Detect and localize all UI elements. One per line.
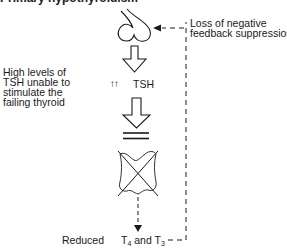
pituitary-icon (118, 9, 150, 41)
down-arrow-icon (123, 98, 150, 128)
tsh-label: TSH (133, 78, 154, 90)
t4-t3-label: T4 and T3 (121, 235, 165, 248)
and-t-text: and T (131, 234, 161, 246)
feedback-note-line: feedback suppression (190, 28, 287, 38)
down-arrow-icon (123, 46, 146, 72)
feedback-arrowhead-icon (153, 25, 161, 32)
dashed-down-arrow-icon (134, 197, 142, 232)
tsh-explanation: High levels of TSH unable to stimulate t… (3, 67, 70, 107)
explanation-line: failing thyroid (3, 97, 70, 107)
feedback-note: Loss of negative feedback suppression (190, 18, 287, 38)
increase-arrows-icon: ↑↑ (110, 78, 118, 89)
feedback-loop-line (162, 22, 186, 240)
block-bars-icon (123, 133, 149, 139)
t3-subscript: 3 (161, 240, 165, 247)
thyroid-crossed-icon (118, 151, 158, 196)
reduced-label: Reduced (62, 235, 104, 245)
